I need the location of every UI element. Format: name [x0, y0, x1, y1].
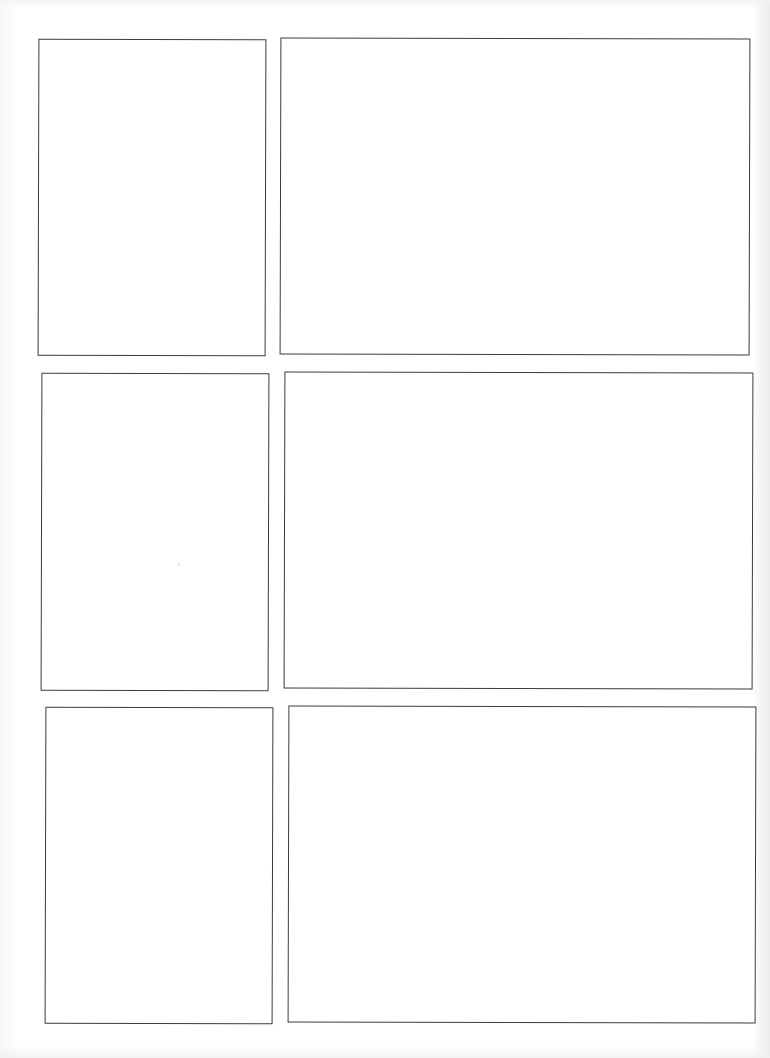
- panel-5: [45, 707, 274, 1025]
- panel-3: [41, 373, 270, 692]
- panel-6: [288, 705, 757, 1023]
- panel-1: [38, 39, 267, 357]
- scan-edge-top: [0, 0, 770, 8]
- page-sheet: [0, 0, 770, 1058]
- scan-speck: [177, 563, 180, 566]
- panel-4: [284, 371, 754, 689]
- scan-edge-bottom: [0, 1046, 770, 1058]
- panel-2: [280, 37, 751, 355]
